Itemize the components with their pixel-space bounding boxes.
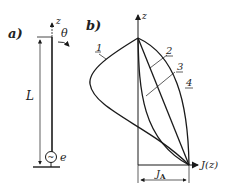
theta-arrow-icon <box>58 42 69 46</box>
panel-b: b) z J(z) 1 2 3 4 JA <box>86 11 218 183</box>
x-axis-label: J(z) <box>199 159 218 170</box>
panel-a-label: a) <box>8 26 23 41</box>
diagram-canvas: a) z θ L ~ e b) z J(z) 1 2 <box>0 0 231 192</box>
curve-2 <box>138 38 189 165</box>
curve-3-label: 3 <box>177 61 183 72</box>
curve-1 <box>90 38 189 165</box>
curve-2-leader <box>150 55 167 68</box>
z-axis-label: z <box>55 16 61 26</box>
theta-label: θ <box>61 27 68 40</box>
panel-b-label: b) <box>86 18 101 33</box>
panel-a: a) z θ L ~ e <box>8 16 69 167</box>
length-label: L <box>25 89 34 103</box>
curve-2-label: 2 <box>165 45 172 56</box>
y-axis-label: z <box>141 11 147 21</box>
source-label: e <box>60 151 67 164</box>
ja-label: JA <box>154 168 166 181</box>
curve-1-label: 1 <box>96 42 102 53</box>
generator-symbol: ~ <box>48 153 55 162</box>
curve-1-leader <box>99 54 106 59</box>
curve-4-label: 4 <box>185 77 192 88</box>
